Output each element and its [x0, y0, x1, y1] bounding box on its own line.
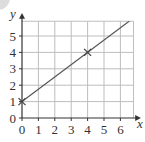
x-tick-label: 6: [117, 122, 124, 137]
x-tick-label: 2: [52, 122, 59, 137]
x-axis-label: x: [136, 116, 143, 131]
corner-artifact: [0, 0, 10, 10]
line-chart: 0123456012345 x y: [0, 0, 145, 142]
axes: [19, 13, 141, 121]
x-tick-label: 5: [101, 122, 108, 137]
y-axis-arrow-icon: [19, 13, 25, 19]
x-tick-label: 3: [68, 122, 75, 137]
y-tick-label: 3: [10, 61, 17, 76]
x-tick-label: 1: [35, 122, 42, 137]
y-tick-label: 1: [10, 94, 17, 109]
y-tick-label: 5: [10, 29, 17, 44]
x-tick-label: 0: [19, 122, 26, 137]
x-tick-label: 4: [84, 122, 91, 137]
grid: [22, 21, 134, 118]
y-axis-label: y: [8, 6, 16, 21]
y-tick-label: 0: [10, 111, 17, 126]
tick-labels: 0123456012345: [10, 29, 125, 138]
y-tick-label: 4: [10, 45, 17, 60]
y-tick-label: 2: [10, 78, 17, 93]
